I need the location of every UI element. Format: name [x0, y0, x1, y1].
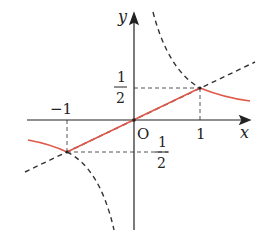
point-origin: [132, 118, 136, 122]
y-tick-mhalf-num: 1: [158, 134, 167, 150]
y-tick-half-den: 2: [116, 90, 125, 106]
red-left-curve: [28, 140, 67, 152]
x-tick-m1: −1: [50, 100, 72, 118]
x-axis-label: x: [240, 123, 249, 142]
y-tick-mhalf-den: 2: [157, 155, 166, 171]
y-axis-arrow: [130, 13, 138, 24]
hyperbola-upper: [153, 12, 200, 88]
red-right-curve: [200, 88, 250, 101]
graph: y x O 1 −1 1 2 1 2: [0, 0, 272, 243]
y-axis-label: y: [117, 7, 128, 26]
origin-label: O: [137, 125, 149, 143]
point-m1: [65, 150, 68, 153]
hyperbola-lower: [67, 152, 114, 230]
x-tick-1: 1: [196, 125, 206, 143]
point-1: [198, 86, 201, 89]
y-tick-half-num: 1: [117, 69, 126, 85]
